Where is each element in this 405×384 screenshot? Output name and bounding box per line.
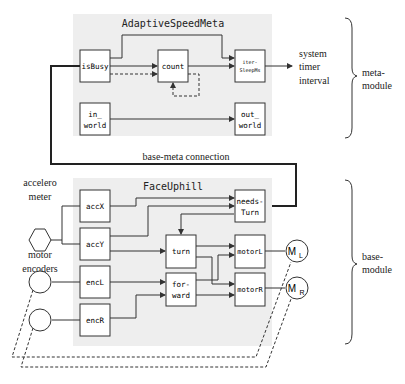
- svg-text:world: world: [84, 121, 107, 130]
- svg-text:world: world: [239, 121, 262, 130]
- svg-text:meta-: meta-: [362, 67, 385, 78]
- svg-text:in_: in_: [88, 110, 102, 119]
- encL-block[interactable]: encL: [80, 266, 110, 298]
- count-block[interactable]: count: [158, 50, 188, 82]
- needsTurn-block[interactable]: needs- Turn: [235, 190, 265, 222]
- turn-block[interactable]: turn: [166, 235, 196, 268]
- svg-text:out_: out_: [241, 110, 260, 119]
- svg-text:base-: base-: [362, 251, 383, 262]
- right-encoder-circle-icon: [29, 309, 51, 331]
- svg-text:iter-: iter-: [242, 59, 257, 65]
- base-module-brace: [345, 180, 357, 344]
- motorL-block[interactable]: motorL: [235, 235, 265, 268]
- left-encoder-circle-icon: [29, 271, 51, 293]
- svg-text:system: system: [299, 48, 327, 59]
- meta-module-title: AdaptiveSpeedMeta: [122, 18, 224, 29]
- diagram-canvas: AdaptiveSpeedMeta isBusy count iter- Sle…: [0, 0, 405, 384]
- svg-text:encL: encL: [86, 278, 105, 287]
- svg-text:meter: meter: [29, 191, 52, 202]
- base-module-label: base- module: [362, 251, 393, 275]
- svg-text:SleepMs: SleepMs: [239, 67, 260, 74]
- svg-text:needs-: needs-: [236, 197, 263, 206]
- svg-text:motorR: motorR: [237, 286, 263, 294]
- accY-block[interactable]: accY: [80, 228, 110, 260]
- encR-block[interactable]: encR: [80, 304, 110, 336]
- svg-text:M: M: [288, 246, 296, 257]
- svg-text:L: L: [299, 252, 303, 259]
- svg-text:count: count: [162, 62, 185, 71]
- base-module-title: FaceUphill: [143, 181, 203, 192]
- svg-text:interval: interval: [299, 75, 330, 86]
- svg-text:ward: ward: [172, 291, 190, 300]
- left-motor-icon: M L: [286, 240, 308, 262]
- svg-text:timer: timer: [299, 61, 321, 72]
- svg-text:turn: turn: [172, 247, 190, 256]
- out-world-block[interactable]: out_ world: [235, 103, 265, 135]
- accX-block[interactable]: accX: [80, 190, 110, 222]
- accelerometer-hexagon-icon: [29, 229, 51, 251]
- forward-block[interactable]: for- ward: [166, 273, 196, 306]
- svg-text:Turn: Turn: [241, 208, 259, 217]
- svg-text:isBusy: isBusy: [81, 62, 109, 71]
- svg-text:module: module: [362, 264, 393, 275]
- meta-module-label: meta- module: [362, 67, 393, 91]
- svg-text:accX: accX: [86, 202, 105, 211]
- svg-text:module: module: [362, 80, 393, 91]
- in-world-block[interactable]: in_ world: [80, 103, 110, 135]
- isBusy-block[interactable]: isBusy: [80, 50, 110, 82]
- svg-text:for-: for-: [172, 280, 190, 289]
- system-timer-interval-label: system timer interval: [299, 48, 330, 86]
- iterSleepMs-block[interactable]: iter- SleepMs: [235, 50, 265, 82]
- svg-text:motorL: motorL: [237, 248, 262, 256]
- right-motor-icon: M R: [286, 277, 308, 299]
- motor-encoders-label: motor encoders: [22, 249, 58, 274]
- meta-module-brace: [345, 18, 357, 138]
- svg-text:M: M: [288, 283, 296, 294]
- svg-text:accelero: accelero: [23, 177, 56, 188]
- accelerometer-label: accelero meter: [23, 177, 56, 202]
- base-meta-connection-label: base-meta connection: [143, 151, 230, 162]
- svg-text:motor: motor: [28, 249, 53, 260]
- svg-text:accY: accY: [86, 240, 105, 249]
- svg-text:encR: encR: [86, 316, 105, 325]
- motorR-block[interactable]: motorR: [235, 273, 265, 306]
- svg-text:R: R: [299, 289, 304, 296]
